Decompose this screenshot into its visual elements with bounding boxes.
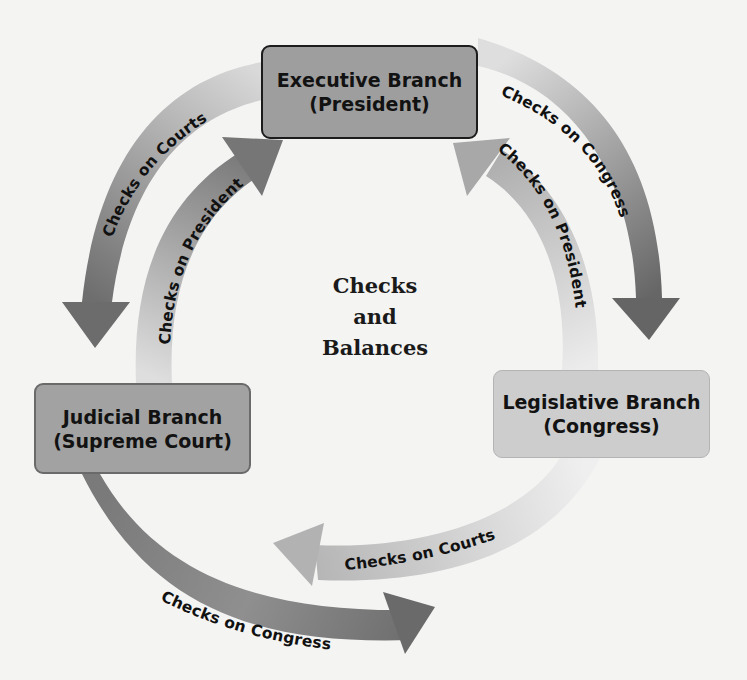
title-line-2: and — [290, 301, 460, 332]
judicial-branch-box: Judicial Branch (Supreme Court) — [34, 383, 251, 474]
center-title: Checks and Balances — [290, 270, 460, 363]
executive-branch-sub: (President) — [309, 92, 429, 116]
legislative-branch-box: Legislative Branch (Congress) — [493, 370, 710, 458]
legislative-branch-name: Legislative Branch — [502, 390, 700, 414]
executive-branch-box: Executive Branch (President) — [261, 45, 478, 139]
executive-branch-name: Executive Branch — [277, 68, 462, 92]
judicial-branch-sub: (Supreme Court) — [53, 429, 232, 453]
legislative-branch-sub: (Congress) — [543, 414, 659, 438]
title-line-3: Balances — [290, 332, 460, 363]
title-line-1: Checks — [290, 270, 460, 301]
judicial-branch-name: Judicial Branch — [63, 405, 222, 429]
arrow-judicial-to-exec — [136, 137, 283, 383]
arrow-legislative-to-judicial — [273, 458, 600, 586]
